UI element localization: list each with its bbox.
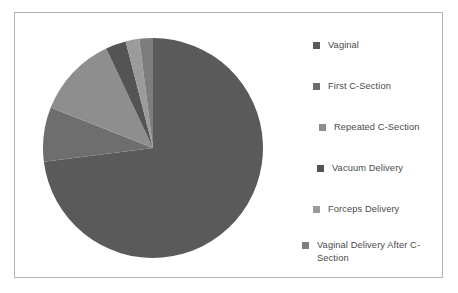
legend-item-label: Vacuum Delivery bbox=[332, 162, 403, 175]
legend-item[interactable]: First C-Section bbox=[299, 80, 458, 93]
legend-item[interactable]: Vaginal Delivery After C- Section bbox=[299, 239, 458, 264]
legend-item[interactable]: Forceps Delivery bbox=[299, 203, 458, 216]
legend-item[interactable]: Vaginal bbox=[299, 39, 458, 52]
pie-chart bbox=[42, 35, 264, 262]
chart-frame: VaginalFirst C-SectionRepeated C-Section… bbox=[14, 12, 443, 278]
legend-swatch-icon bbox=[317, 165, 324, 172]
legend-item-label: First C-Section bbox=[328, 80, 391, 93]
legend-swatch-icon bbox=[319, 124, 326, 131]
chart-legend: VaginalFirst C-SectionRepeated C-Section… bbox=[299, 39, 458, 269]
legend-item-label: Vaginal Delivery After C- Section bbox=[317, 239, 420, 264]
legend-item-label: Repeated C-Section bbox=[334, 121, 420, 134]
pie-slice-group bbox=[43, 38, 263, 258]
pie-chart-svg bbox=[42, 35, 264, 262]
legend-item[interactable]: Repeated C-Section bbox=[299, 121, 458, 134]
legend-swatch-icon bbox=[302, 242, 309, 249]
legend-swatch-icon bbox=[313, 206, 320, 213]
legend-item-label: Vaginal bbox=[328, 39, 359, 52]
legend-swatch-icon bbox=[313, 42, 320, 49]
legend-item-label: Forceps Delivery bbox=[328, 203, 399, 216]
legend-item[interactable]: Vacuum Delivery bbox=[299, 162, 458, 175]
legend-swatch-icon bbox=[313, 83, 320, 90]
